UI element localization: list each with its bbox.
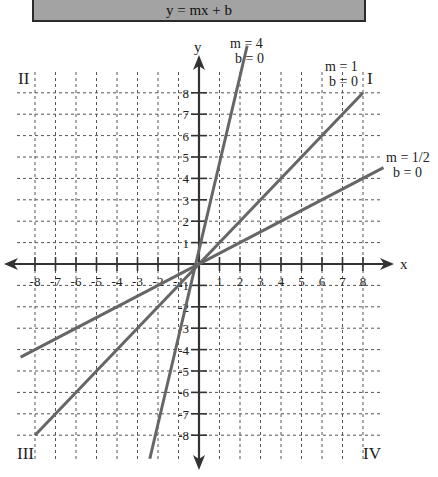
annotation-m4-slope: m = 4 [230,36,263,51]
quadrant-IV-label: IV [363,444,382,463]
x-tick-label: 4 [278,274,285,289]
y-tick-label: 6 [183,129,190,144]
y-tick-label: 8 [183,86,190,101]
annotation-m4-intercept: b = 0 [235,51,264,66]
y-tick-label: 4 [183,171,190,186]
annotation-m1-intercept: b = 0 [329,74,358,89]
x-tick-label: 2 [237,274,244,289]
y-tick-label: -6 [178,385,189,400]
x-tick-label: 8 [360,274,367,289]
quadrant-III-label: III [17,444,34,463]
y-tick-label: -7 [178,407,189,422]
y-tick-label: -5 [178,364,189,379]
y-tick-label: 1 [183,236,190,251]
y-tick-label: -4 [178,343,189,358]
y-tick-label: -8 [178,428,189,443]
y-axis-label: y [194,39,202,55]
x-tick-label: 6 [319,274,326,289]
y-tick-label: 5 [183,150,190,165]
x-tick-label: 3 [257,274,264,289]
annotation-mhalf-slope: m = 1/2 [386,150,430,165]
x-tick-label: -4 [112,274,123,289]
annotation-mhalf-intercept: b = 0 [393,165,422,180]
data-lines [21,46,384,459]
x-tick-label: 1 [216,274,223,289]
x-tick-label: -7 [50,274,61,289]
quadrant-I-label: I [367,69,373,88]
quadrant-II-label: II [18,69,30,88]
x-tick-label: -5 [91,274,102,289]
annotation-m1-slope: m = 1 [325,59,358,74]
x-tick-label: 7 [339,274,346,289]
y-tick-label: 7 [183,107,190,122]
x-tick-label: 5 [298,274,305,289]
x-tick-label: -3 [132,274,143,289]
x-tick-label: -6 [71,274,82,289]
x-tick-label: -8 [30,274,41,289]
y-tick-label: 2 [183,214,190,229]
y-tick-label: 3 [183,193,190,208]
x-axis-label: x [400,256,408,272]
coordinate-plane: -8-7-6-5-4-3-2-112345678-8-7-6-5-4-3-2-1… [0,0,438,477]
